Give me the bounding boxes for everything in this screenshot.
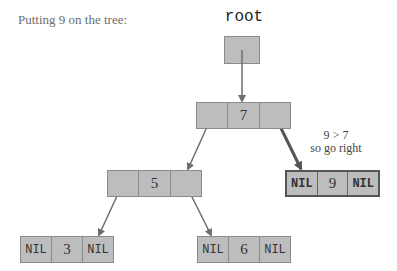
node-3-left-nil: NIL xyxy=(21,237,51,262)
node-5-value: 5 xyxy=(138,171,169,196)
node-7-value: 7 xyxy=(227,103,258,128)
node-6-value: 6 xyxy=(228,237,259,262)
node-5-right-pointer xyxy=(170,171,201,196)
node-5: 5 xyxy=(107,170,202,197)
comparison-note: 9 > 7 so go right xyxy=(296,129,376,155)
node-7-left-pointer xyxy=(197,103,227,128)
node-5-left-pointer xyxy=(108,171,138,196)
node-3: NIL 3 NIL xyxy=(20,236,114,263)
node-3-right-nil: NIL xyxy=(82,237,113,262)
node-9-left-nil: NIL xyxy=(287,172,317,195)
node-6: NIL 6 NIL xyxy=(197,236,291,263)
node-9-right-nil: NIL xyxy=(347,172,378,195)
node-6-left-nil: NIL xyxy=(198,237,228,262)
node-9-new: NIL 9 NIL xyxy=(285,170,380,197)
note-line-2: so go right xyxy=(296,142,376,155)
node-7-right-pointer xyxy=(259,103,290,128)
node-3-value: 3 xyxy=(51,237,82,262)
node-9-value: 9 xyxy=(317,172,348,195)
node-7: 7 xyxy=(196,102,291,129)
node-6-right-nil: NIL xyxy=(259,237,290,262)
